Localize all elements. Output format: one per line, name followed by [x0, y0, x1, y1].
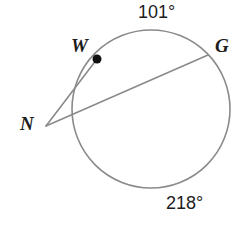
geometry-figure: W G N 101° 218°: [0, 0, 245, 229]
geometry-canvas: [0, 0, 245, 229]
arc-measure-label-top: 101°: [138, 3, 175, 21]
point-label-g: G: [215, 36, 229, 55]
point-label-n: N: [20, 114, 34, 133]
arc-measure-label-bottom: 218°: [166, 194, 203, 212]
tangent-line-n-w: [46, 59, 97, 126]
point-label-w: W: [71, 36, 88, 55]
circle-shape: [72, 30, 230, 188]
point-marker-w: [93, 55, 102, 64]
secant-line-n-g: [46, 55, 208, 126]
